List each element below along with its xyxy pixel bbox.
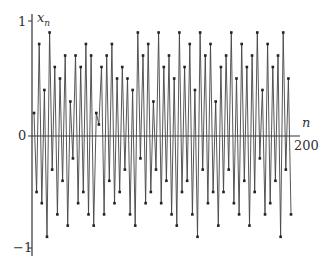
data-point: [212, 191, 215, 194]
data-point: [129, 213, 132, 216]
data-point: [183, 66, 186, 69]
data-point: [139, 157, 142, 160]
data-point: [48, 31, 51, 34]
data-point: [33, 112, 36, 115]
data-point: [46, 236, 49, 239]
data-point: [162, 66, 165, 69]
data-point: [214, 100, 217, 103]
data-point: [168, 54, 171, 57]
data-point: [131, 89, 134, 92]
data-point: [108, 180, 111, 183]
data-point: [240, 43, 243, 46]
data-point: [282, 31, 285, 34]
data-point: [144, 202, 147, 205]
data-point: [238, 213, 241, 216]
data-point: [175, 224, 178, 227]
data-point: [160, 202, 163, 205]
data-point: [248, 224, 251, 227]
data-point: [90, 54, 93, 57]
data-point: [181, 191, 184, 194]
y-tick-minus1: −1: [13, 240, 32, 255]
data-point: [79, 66, 82, 69]
data-point: [188, 43, 191, 46]
data-point: [225, 54, 228, 57]
data-point: [165, 180, 168, 183]
data-point: [56, 213, 59, 216]
data-point: [194, 89, 197, 92]
series-line: [33, 31, 293, 238]
data-point: [178, 31, 181, 34]
data-point: [103, 213, 106, 216]
data-point: [111, 43, 114, 46]
data-point: [269, 202, 272, 205]
data-point: [170, 213, 173, 216]
y-tick-0: 0: [18, 128, 26, 143]
data-point: [201, 168, 204, 171]
data-point: [209, 43, 212, 46]
data-point: [235, 77, 238, 80]
data-point: [72, 157, 75, 160]
data-point: [61, 180, 64, 183]
data-point: [191, 213, 194, 216]
data-point: [204, 54, 207, 57]
data-point: [274, 180, 277, 183]
data-point: [116, 77, 119, 80]
data-point: [35, 191, 38, 194]
data-point: [85, 43, 88, 46]
data-point: [142, 54, 145, 57]
data-point: [155, 168, 158, 171]
data-point: [196, 236, 199, 239]
data-point: [246, 66, 249, 69]
y-tick-1: 1: [18, 14, 26, 29]
x-axis-label: n: [302, 115, 310, 130]
data-point: [230, 31, 233, 34]
data-point: [253, 191, 256, 194]
data-point: [279, 236, 282, 239]
data-point: [290, 213, 293, 216]
data-point: [82, 191, 85, 194]
data-point: [69, 100, 72, 103]
data-point: [113, 202, 116, 205]
data-point: [121, 66, 124, 69]
data-point: [233, 202, 236, 205]
data-point: [199, 31, 202, 34]
data-point: [264, 213, 267, 216]
data-point: [152, 100, 155, 103]
data-point: [150, 191, 153, 194]
data-point: [134, 224, 137, 227]
data-point: [157, 31, 160, 34]
data-point: [118, 191, 121, 194]
data-point: [217, 224, 220, 227]
data-point: [40, 202, 43, 205]
data-point: [227, 168, 230, 171]
data-point: [87, 213, 90, 216]
data-point: [186, 180, 189, 183]
data-point: [43, 89, 46, 92]
data-point: [92, 224, 95, 227]
data-point: [222, 191, 225, 194]
data-point: [38, 43, 41, 46]
data-point: [259, 157, 262, 160]
data-point: [59, 77, 62, 80]
data-point: [100, 66, 103, 69]
data-point: [98, 123, 101, 126]
data-point: [207, 202, 210, 205]
data-point: [105, 54, 108, 57]
data-point: [285, 168, 288, 171]
data-point: [64, 54, 67, 57]
data-point: [272, 66, 275, 69]
y-axis-label: xn: [37, 10, 50, 28]
data-point: [277, 54, 280, 57]
data-point: [173, 77, 176, 80]
data-point: [261, 89, 264, 92]
data-point: [126, 77, 129, 80]
data-point: [266, 43, 269, 46]
data-point: [51, 168, 54, 171]
data-point: [74, 54, 77, 57]
data-point: [243, 180, 246, 183]
data-point: [66, 224, 69, 227]
x-tick-200: 200: [294, 138, 319, 153]
data-point: [53, 66, 56, 69]
data-point: [287, 77, 290, 80]
data-point: [147, 43, 150, 46]
